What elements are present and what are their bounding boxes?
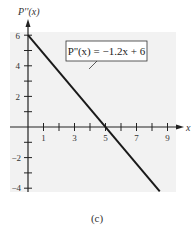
x-tick-label-9: 9 [165, 133, 170, 143]
y-tick-label-2: 2 [16, 92, 21, 102]
x-tick-label-5: 5 [103, 133, 108, 143]
equation-label: P''(x) = −1.2x + 6 [68, 45, 146, 58]
x-tick-label-3: 3 [72, 133, 77, 143]
x-tick-label-1: 1 [41, 133, 46, 143]
figure-caption: (c) [91, 212, 104, 225]
chart: 6 4 2 −2 −4 P''(x) 1 3 5 7 9 x P''(x) = … [0, 0, 193, 233]
y-axis-label: P''(x) [17, 6, 40, 18]
y-tick-label-4: 4 [16, 61, 21, 71]
y-tick-label-neg4: −4 [11, 183, 21, 193]
x-axis-arrow-icon [176, 125, 184, 130]
y-axis-arrow-icon [26, 19, 31, 27]
x-tick-label-7: 7 [134, 133, 139, 143]
x-axis-label: x [185, 122, 191, 133]
y-tick-label-neg2: −2 [11, 153, 21, 163]
y-tick-label-6: 6 [16, 31, 21, 41]
